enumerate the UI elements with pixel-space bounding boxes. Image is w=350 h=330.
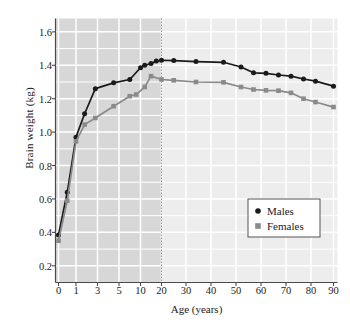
data-point xyxy=(194,80,199,85)
x-tick-label: 20 xyxy=(156,285,167,296)
x-tick-label: 40 xyxy=(206,285,217,296)
data-point xyxy=(149,74,154,79)
legend-label: Males xyxy=(267,205,294,217)
data-point xyxy=(159,77,164,82)
data-point xyxy=(171,78,176,83)
data-point xyxy=(82,111,87,116)
x-tick-label: 60 xyxy=(256,285,267,296)
data-point xyxy=(313,100,318,105)
data-point xyxy=(171,58,176,63)
plot-canvas: MalesFemales xyxy=(0,0,350,330)
x-tick-label: 10 xyxy=(135,285,146,296)
x-tick-label: 80 xyxy=(306,285,317,296)
x-tick-label: 50 xyxy=(231,285,242,296)
data-point xyxy=(159,58,164,63)
x-tick-label: 90 xyxy=(328,285,339,296)
x-tick-label: 3 xyxy=(95,285,100,296)
x-tick-label: 30 xyxy=(181,285,192,296)
data-point xyxy=(221,60,226,65)
data-point xyxy=(264,71,269,76)
x-tick-label: 5 xyxy=(116,285,121,296)
data-point xyxy=(313,79,318,84)
data-point xyxy=(127,77,132,82)
data-point xyxy=(74,139,79,144)
data-point xyxy=(251,70,256,75)
data-point xyxy=(301,76,306,81)
data-point xyxy=(93,116,98,121)
data-point xyxy=(134,92,139,97)
data-point xyxy=(111,80,116,85)
shaded-growth-region xyxy=(56,19,162,283)
legend-label: Females xyxy=(267,220,304,232)
y-tick-label: 0.4 xyxy=(28,227,52,238)
data-point xyxy=(93,86,98,91)
data-point xyxy=(264,88,269,93)
x-tick-label: 1 xyxy=(73,285,78,296)
data-point xyxy=(239,64,244,69)
legend-marker-circle xyxy=(255,208,261,214)
data-point xyxy=(276,88,281,93)
data-point xyxy=(142,63,147,68)
data-point xyxy=(289,74,294,79)
data-point xyxy=(331,84,336,89)
data-point xyxy=(251,87,256,92)
y-tick-label: 1.6 xyxy=(28,26,52,37)
data-point xyxy=(331,105,336,110)
x-tick-label: 0 xyxy=(56,285,61,296)
data-point xyxy=(194,59,199,64)
data-point xyxy=(221,80,226,85)
data-point xyxy=(111,104,116,109)
data-point xyxy=(142,85,147,90)
y-tick-label: 0.2 xyxy=(28,260,52,271)
data-point xyxy=(65,198,70,203)
data-point xyxy=(154,59,159,64)
x-axis-title: Age (years) xyxy=(55,303,338,315)
data-point xyxy=(289,91,294,96)
x-tick-label: 70 xyxy=(281,285,292,296)
data-point xyxy=(127,94,132,99)
data-point xyxy=(82,122,87,127)
legend-marker-square xyxy=(255,223,261,229)
x-axis-tick-labels: 0135102030405060708090 xyxy=(0,285,350,301)
data-point xyxy=(138,65,143,70)
data-point xyxy=(301,96,306,101)
brain-weight-chart-figure: 0.20.40.60.81.01.21.41.6 Brain weight (k… xyxy=(0,0,350,330)
data-point xyxy=(276,72,281,77)
y-axis-title: Brain weight (kg) xyxy=(23,53,35,203)
legend: MalesFemales xyxy=(248,199,320,237)
data-point xyxy=(56,238,61,243)
data-point xyxy=(239,85,244,90)
data-point xyxy=(149,61,154,66)
